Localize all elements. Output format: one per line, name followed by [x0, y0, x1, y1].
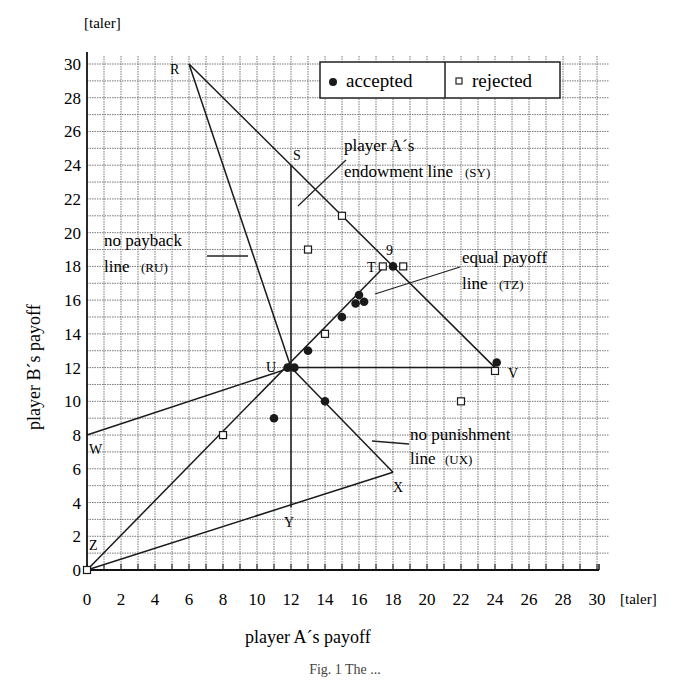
- y-tick-label: 2: [73, 527, 82, 546]
- annotation-no-payback-line: no payback line (RU): [104, 231, 248, 276]
- svg-text:(SY): (SY): [465, 165, 490, 180]
- point-label-t: T: [367, 260, 376, 275]
- legend-rejected: rejected: [472, 70, 533, 91]
- point-label-x: X: [393, 480, 403, 495]
- rejected-point: [379, 263, 386, 270]
- scatter-chart: 024681012141618202224262830 024681012141…: [0, 0, 690, 680]
- x-tick-label: 18: [385, 590, 402, 609]
- x-unit-label: [taler]: [620, 591, 657, 607]
- y-tick-label: 28: [64, 89, 81, 108]
- rejected-point: [322, 330, 329, 337]
- accepted-point: [338, 313, 347, 322]
- x-tick-label: 2: [117, 590, 126, 609]
- y-tick-label: 16: [64, 291, 81, 310]
- accepted-point: [360, 298, 369, 307]
- x-tick-label: 30: [589, 590, 606, 609]
- rejected-point: [84, 567, 91, 574]
- y-tick-label: 8: [73, 426, 82, 445]
- rejected-point: [339, 212, 346, 219]
- figure-caption: Fig. 1 The ...: [0, 662, 690, 678]
- accepted-point: [389, 262, 398, 271]
- svg-text:(RU): (RU): [141, 260, 168, 275]
- y-tick-label: 30: [64, 55, 81, 74]
- x-tick-label: 0: [83, 590, 92, 609]
- y-unit-label: [taler]: [84, 15, 121, 31]
- y-tick-label: 0: [73, 561, 82, 580]
- y-tick-label: 20: [64, 224, 81, 243]
- svg-text:(UX): (UX): [445, 452, 472, 467]
- rejected-point: [492, 367, 499, 374]
- rejected-point: [458, 398, 465, 405]
- x-tick-label: 20: [419, 590, 436, 609]
- svg-text:line: line: [462, 274, 488, 293]
- legend-accepted: accepted: [346, 70, 413, 91]
- annotation-endowment-line: player A´s endowment line (SY): [298, 136, 490, 206]
- y-tick-label: 6: [73, 460, 82, 479]
- x-tick-label: 24: [487, 590, 505, 609]
- rejected-marker-icon: [456, 78, 462, 84]
- x-tick-label: 28: [555, 590, 572, 609]
- accepted-point: [304, 346, 313, 355]
- x-tick-label: 10: [249, 590, 266, 609]
- y-tick-label: 14: [64, 325, 82, 344]
- rejected-point: [220, 432, 227, 439]
- point-label-r: R: [170, 62, 180, 77]
- point-label-s: S: [293, 148, 301, 163]
- accepted-point: [321, 397, 330, 406]
- accepted-point: [290, 363, 299, 372]
- annotation-nine: 9: [386, 243, 393, 258]
- legend: accepted rejected: [320, 62, 560, 98]
- point-label-z: Z: [89, 538, 98, 553]
- x-tick-label: 8: [219, 590, 228, 609]
- accepted-marker-icon: [329, 78, 337, 86]
- svg-text:line: line: [410, 449, 436, 468]
- point-label-y: Y: [284, 515, 294, 530]
- x-tick-label: 14: [317, 590, 335, 609]
- y-axis-title: player B´s payoff: [24, 304, 44, 430]
- point-label-u: U: [266, 360, 276, 375]
- x-tick-label: 26: [521, 590, 538, 609]
- y-tick-labels: 024681012141618202224262830: [64, 55, 82, 580]
- svg-text:line: line: [104, 257, 130, 276]
- accepted-point: [270, 414, 279, 423]
- x-tick-labels: 024681012141618202224262830: [83, 590, 606, 609]
- accepted-point: [492, 358, 501, 367]
- x-axis-title: player A´s payoff: [245, 627, 371, 647]
- accepted-point: [351, 299, 360, 308]
- svg-text:player A´s: player A´s: [344, 136, 414, 155]
- x-tick-label: 22: [453, 590, 470, 609]
- svg-text:(TZ): (TZ): [499, 277, 524, 292]
- y-tick-label: 24: [64, 156, 82, 175]
- y-tick-label: 18: [64, 257, 81, 276]
- x-tick-label: 16: [351, 590, 368, 609]
- y-tick-label: 26: [64, 122, 81, 141]
- svg-text:equal payoff: equal payoff: [462, 248, 547, 267]
- y-tick-label: 22: [64, 190, 81, 209]
- y-tick-label: 10: [64, 392, 81, 411]
- svg-text:endowment line: endowment line: [344, 162, 453, 181]
- grid: [87, 56, 609, 570]
- rejected-point: [305, 246, 312, 253]
- point-label-v: V: [508, 366, 518, 381]
- svg-text:no punishment: no punishment: [410, 425, 511, 444]
- y-tick-label: 12: [64, 359, 81, 378]
- x-tick-label: 12: [283, 590, 300, 609]
- y-tick-label: 4: [73, 494, 82, 513]
- x-tick-label: 6: [185, 590, 194, 609]
- svg-text:no payback: no payback: [104, 231, 182, 250]
- rejected-point: [400, 263, 407, 270]
- x-tick-label: 4: [151, 590, 160, 609]
- point-label-w: W: [89, 442, 103, 457]
